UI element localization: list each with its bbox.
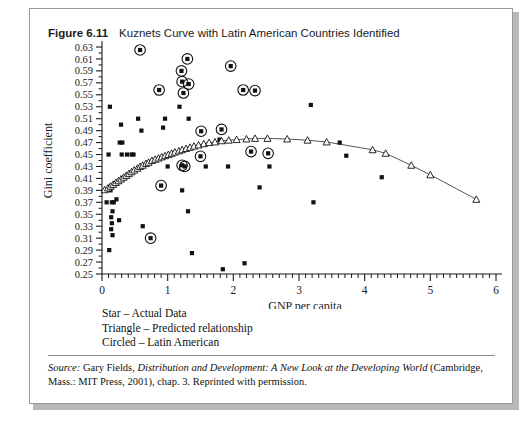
star-marker: [120, 152, 124, 156]
star-marker: [266, 151, 270, 155]
star-marker: [253, 89, 257, 93]
y-tick-label: 0.49: [75, 125, 93, 136]
star-marker: [157, 88, 161, 92]
y-tick-label: 0.45: [75, 149, 93, 160]
star-marker: [226, 164, 230, 168]
star-marker: [229, 64, 233, 68]
star-marker: [159, 183, 163, 187]
y-tick-label: 0.29: [75, 245, 93, 256]
x-tick-label: 5: [427, 284, 433, 296]
star-marker: [110, 209, 114, 213]
star-marker: [161, 126, 165, 130]
star-marker: [117, 218, 121, 222]
y-tick-label: 0.27: [75, 257, 93, 268]
triangle-marker: [473, 196, 480, 202]
y-tick-label: 0.63: [75, 42, 93, 53]
star-marker: [198, 154, 202, 158]
series-star: [104, 103, 383, 271]
star-marker: [258, 185, 262, 189]
star-marker: [109, 215, 113, 219]
star-marker: [148, 236, 152, 240]
y-tick-label: 0.37: [75, 197, 93, 208]
x-tick-label: 2: [230, 284, 236, 296]
star-marker: [104, 200, 108, 204]
star-marker: [119, 123, 123, 127]
star-marker: [136, 117, 140, 121]
x-tick-label: 1: [165, 284, 171, 296]
star-marker: [311, 200, 315, 204]
x-tick-label: 4: [362, 284, 368, 296]
source-work-title: Distribution and Development: A New Look…: [137, 362, 427, 373]
x-tick-label: 0: [99, 284, 105, 296]
y-tick-label: 0.47: [75, 137, 93, 148]
star-marker: [199, 129, 203, 133]
star-marker: [177, 105, 181, 109]
star-marker: [183, 164, 187, 168]
star-marker: [186, 209, 190, 213]
star-marker: [109, 227, 113, 231]
star-marker: [125, 152, 129, 156]
star-marker: [120, 140, 124, 144]
source-label: Source:: [48, 362, 80, 373]
x-tick-label: 3: [296, 284, 302, 296]
series-triangle: [101, 135, 480, 202]
star-marker: [179, 69, 183, 73]
legend-item-star: Star – Actual Data: [102, 306, 253, 321]
triangle-marker: [408, 162, 415, 168]
x-axis-label: GNP per capita: [268, 299, 342, 309]
star-marker: [110, 221, 114, 225]
star-marker: [267, 164, 271, 168]
star-marker: [139, 129, 143, 133]
star-marker: [338, 140, 342, 144]
triangle-marker: [427, 171, 434, 177]
chart-legend: Star – Actual Data Triangle – Predicted …: [102, 306, 253, 350]
y-tick-label: 0.25: [75, 269, 93, 280]
y-tick-label: 0.51: [75, 113, 93, 124]
legend-item-circled: Circled – Latin American: [102, 335, 253, 350]
star-marker: [107, 248, 111, 252]
y-tick-label: 0.57: [75, 77, 93, 88]
star-marker: [131, 152, 135, 156]
source-author: Gary Fields,: [80, 362, 137, 373]
star-marker: [380, 175, 384, 179]
y-tick-label: 0.41: [75, 173, 93, 184]
star-marker: [181, 91, 185, 95]
y-tick-label: 0.55: [75, 89, 93, 100]
star-marker: [114, 197, 118, 201]
y-tick-label: 0.53: [75, 101, 93, 112]
star-marker: [187, 82, 191, 86]
star-marker: [344, 154, 348, 158]
y-tick-label: 0.31: [75, 233, 93, 244]
star-marker: [106, 152, 110, 156]
predicted-relationship-curve: [105, 138, 477, 199]
star-marker: [141, 224, 145, 228]
source-divider: [48, 355, 495, 356]
kuznets-curve-chart: 0.250.270.290.310.330.350.370.390.410.43…: [30, 9, 514, 309]
star-marker: [163, 117, 167, 121]
star-marker: [110, 233, 114, 237]
y-tick-label: 0.33: [75, 221, 93, 232]
star-marker: [138, 48, 142, 52]
star-marker: [221, 267, 225, 271]
star-marker: [190, 251, 194, 255]
star-marker: [204, 164, 208, 168]
star-marker: [219, 127, 223, 131]
star-marker: [185, 57, 189, 61]
star-marker: [242, 261, 246, 265]
y-tick-label: 0.43: [75, 161, 93, 172]
star-marker: [187, 117, 191, 121]
y-tick-label: 0.59: [75, 65, 93, 76]
legend-item-triangle: Triangle – Predicted relationship: [102, 321, 253, 336]
y-tick-label: 0.35: [75, 209, 93, 220]
star-marker: [309, 103, 313, 107]
star-marker: [166, 164, 170, 168]
figure-panel: Figure 6.11Kuznets Curve with Latin Amer…: [29, 8, 513, 404]
star-marker: [241, 88, 245, 92]
y-tick-label: 0.61: [75, 54, 93, 65]
y-axis-label: Gini coefficient: [41, 122, 55, 198]
star-marker: [180, 188, 184, 192]
source-citation: Source: Gary Fields, Distribution and De…: [48, 361, 500, 388]
star-marker: [249, 149, 253, 153]
y-tick-label: 0.39: [75, 185, 93, 196]
star-marker: [108, 105, 112, 109]
